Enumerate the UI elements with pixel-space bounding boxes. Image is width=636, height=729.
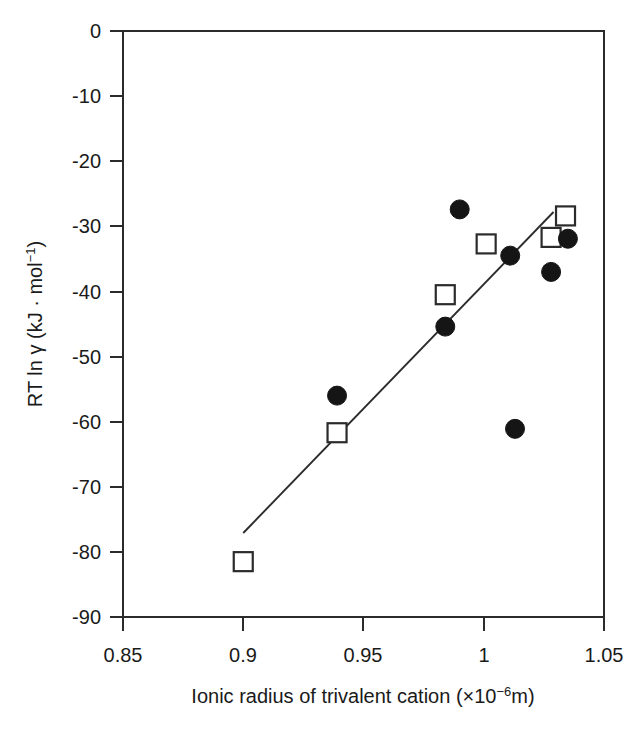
y-tick-label: -20 [72, 150, 101, 172]
y-tick-label: 0 [90, 20, 101, 42]
x-axis-title: Ionic radius of trivalent cation (×10−6m… [191, 684, 534, 707]
y-axis-title-main: RT ln γ (kJ · mol [24, 262, 46, 407]
data-point-filled-circle [501, 246, 520, 265]
data-point-filled-circle [328, 386, 347, 405]
data-point-open-square [436, 285, 455, 304]
x-tick-label: 0.85 [104, 644, 143, 666]
x-tick-label: 0.9 [229, 644, 257, 666]
data-point-filled-circle [558, 229, 577, 248]
data-point-open-square [477, 234, 496, 253]
x-tick-label: 1.05 [585, 644, 624, 666]
svg-text:RT ln γ (kJ · mol−1): RT ln γ (kJ · mol−1) [23, 241, 46, 407]
data-point-open-square [234, 552, 253, 571]
x-axis-title-tail: m) [511, 685, 534, 707]
data-layer [234, 200, 578, 571]
svg-text:Ionic radius of trivalent cati: Ionic radius of trivalent cation (×10−6m… [191, 684, 534, 707]
y-axis-title: RT ln γ (kJ · mol−1) [23, 241, 46, 407]
y-axis-title-sup: −1 [23, 248, 38, 263]
y-tick-label: -10 [72, 85, 101, 107]
data-point-filled-circle [542, 262, 561, 281]
data-point-open-square [328, 423, 347, 442]
data-point-filled-circle [436, 317, 455, 336]
data-point-open-square [542, 228, 561, 247]
y-axis-tick-labels: 0 -10 -20 -30 -40 -50 -60 -70 -80 -90 [72, 20, 101, 628]
y-tick-label: -50 [72, 346, 101, 368]
x-axis-title-main: Ionic radius of trivalent cation (×10 [191, 685, 496, 707]
x-axis-title-sup: −6 [497, 684, 512, 699]
y-tick-label: -90 [72, 606, 101, 628]
y-axis-title-tail: ) [24, 241, 46, 248]
y-tick-label: -80 [72, 541, 101, 563]
x-axis-ticks [123, 617, 604, 631]
scatter-plot: 0 -10 -20 -30 -40 -50 -60 -70 -80 -90 0.… [0, 0, 636, 729]
y-tick-label: -40 [72, 281, 101, 303]
plot-frame [123, 31, 604, 617]
y-tick-label: -70 [72, 476, 101, 498]
series-open-squares [234, 206, 575, 571]
data-point-filled-circle [506, 419, 525, 438]
x-tick-label: 1 [478, 644, 489, 666]
y-axis-ticks [110, 31, 123, 617]
x-tick-label: 0.95 [344, 644, 383, 666]
series-filled-circles [328, 200, 578, 438]
y-tick-label: -30 [72, 215, 101, 237]
x-axis-tick-labels: 0.85 0.9 0.95 1 1.05 [104, 644, 624, 666]
data-point-filled-circle [450, 200, 469, 219]
chart-figure: 0 -10 -20 -30 -40 -50 -60 -70 -80 -90 0.… [0, 0, 636, 729]
y-tick-label: -60 [72, 411, 101, 433]
data-point-open-square [556, 206, 575, 225]
